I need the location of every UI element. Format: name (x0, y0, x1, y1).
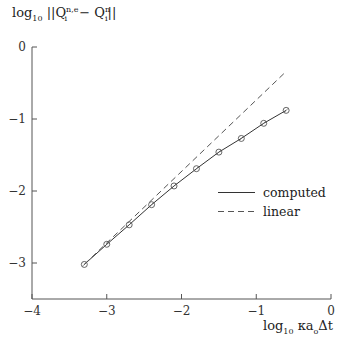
data-point-marker-slash (239, 136, 243, 140)
series (81, 72, 289, 268)
data-point-marker-slash (127, 223, 131, 227)
series-linear-line (84, 72, 286, 265)
legend-computed-label: computed (263, 185, 326, 200)
series-computed-line (84, 110, 286, 264)
chart-canvas: −4−3−2−100−1−2−3 computedlinear (0, 0, 343, 349)
data-point-marker-slash (262, 121, 266, 125)
data-point-marker-slash (149, 202, 153, 206)
x-tick-label: −2 (173, 304, 191, 318)
data-point-marker-slash (194, 166, 198, 170)
y-tick-label: 0 (18, 40, 26, 54)
ticks: −4−3−2−100−1−2−3 (8, 40, 335, 318)
data-point-marker-slash (284, 108, 288, 112)
data-point-marker-slash (172, 184, 176, 188)
x-tick-label: −4 (23, 304, 41, 318)
x-tick-label: 0 (327, 304, 335, 318)
x-tick-label: −1 (247, 304, 265, 318)
legend: computedlinear (218, 185, 326, 219)
y-tick-label: −3 (8, 256, 26, 270)
y-tick-label: −1 (8, 112, 26, 126)
x-tick-label: −3 (98, 304, 116, 318)
data-point-marker-slash (217, 150, 221, 154)
legend-linear-label: linear (263, 204, 300, 219)
axes (32, 47, 331, 299)
y-tick-label: −2 (8, 184, 26, 198)
